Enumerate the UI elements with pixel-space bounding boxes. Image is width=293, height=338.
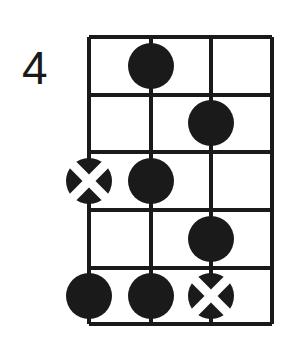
marker-fret4-string3 (188, 216, 234, 262)
marker-dot (188, 216, 234, 262)
marker-fret5-string2 (128, 273, 174, 319)
marker-fret1-string2 (128, 43, 174, 89)
marker-fret5-string1 (66, 273, 112, 319)
marker-dot (128, 158, 174, 204)
marker-dot (188, 100, 234, 146)
chord-diagram-canvas: 4 (0, 0, 293, 338)
fret-position-label: 4 (22, 42, 48, 94)
marker-fret3-string1 (66, 158, 112, 204)
marker-dot (128, 273, 174, 319)
chord-diagram: 4 (0, 0, 293, 338)
marker-fret2-string3 (188, 100, 234, 146)
marker-fret3-string2 (128, 158, 174, 204)
marker-dot (128, 43, 174, 89)
marker-fret5-string3 (188, 273, 234, 319)
marker-dot (66, 273, 112, 319)
